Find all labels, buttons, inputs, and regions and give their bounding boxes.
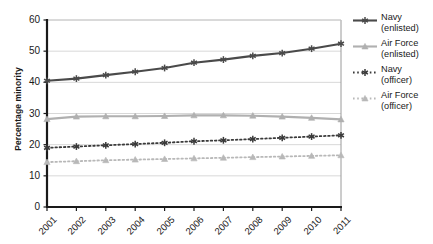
legend-label-line2: (officer) xyxy=(381,75,412,86)
legend-marker-triangle-icon xyxy=(352,91,378,104)
line-chart: Percentage minority 0102030405060 200120… xyxy=(0,0,433,244)
legend-label-line1: Air Force xyxy=(381,90,418,101)
legend-marker-asterisk-icon xyxy=(352,13,378,26)
legend-item: Navy(officer) xyxy=(352,64,432,85)
legend-label: Navy(officer) xyxy=(381,64,412,85)
legend-label-line2: (enlisted) xyxy=(381,49,419,60)
legend-label: Air Force(enlisted) xyxy=(381,38,419,59)
series-3 xyxy=(44,152,344,164)
legend-marker-asterisk-icon xyxy=(352,65,378,78)
legend-label-line2: (officer) xyxy=(381,101,418,112)
legend-label-line1: Air Force xyxy=(381,38,419,49)
legend-marker-triangle-icon xyxy=(352,39,378,52)
chart-legend: Navy(enlisted)Air Force(enlisted)Navy(of… xyxy=(352,12,432,116)
legend-label-line1: Navy xyxy=(381,12,419,23)
series-2 xyxy=(44,132,344,151)
series-0 xyxy=(44,40,344,84)
legend-label: Navy(enlisted) xyxy=(381,12,419,33)
legend-item: Air Force(enlisted) xyxy=(352,38,432,59)
legend-label-line2: (enlisted) xyxy=(381,23,419,34)
legend-item: Air Force(officer) xyxy=(352,90,432,111)
legend-item: Navy(enlisted) xyxy=(352,12,432,33)
legend-label-line1: Navy xyxy=(381,64,412,75)
legend-label: Air Force(officer) xyxy=(381,90,418,111)
